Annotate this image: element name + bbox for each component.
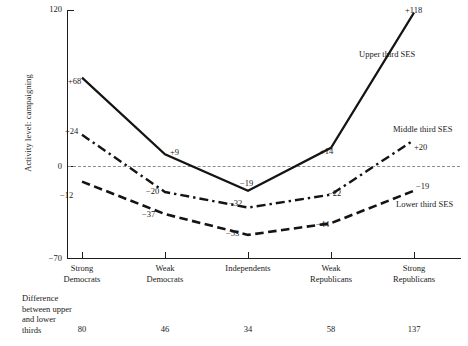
x-category-label-4-line2: Republicans bbox=[368, 274, 460, 285]
series-line-upper-third-ses bbox=[82, 13, 414, 191]
value-label-upper-4: +118 bbox=[405, 5, 422, 15]
value-label-lower-0: −12 bbox=[60, 190, 73, 200]
x-category-label-3: Weak Republicans bbox=[285, 263, 377, 284]
x-category-label-4: Strong Republicans bbox=[368, 263, 460, 284]
value-label-upper-1: +9 bbox=[170, 147, 179, 157]
value-label-lower-3: −44 bbox=[316, 219, 329, 229]
difference-label-line1: Difference bbox=[22, 293, 72, 304]
x-category-label-3-line2: Republicans bbox=[285, 274, 377, 285]
value-label-upper-3: +14 bbox=[320, 146, 333, 156]
x-category-label-0: Strong Democrats bbox=[36, 263, 128, 284]
value-label-middle-0: +24 bbox=[65, 126, 78, 136]
series-label-lower-third-ses: Lower third SES bbox=[396, 199, 453, 209]
value-label-middle-3: −22 bbox=[328, 188, 341, 198]
series-label-middle-third-ses: Middle third SES bbox=[393, 124, 453, 134]
x-category-label-2: Independents bbox=[202, 263, 294, 274]
x-category-label-1-line1: Weak bbox=[119, 263, 211, 274]
series-line-middle-third-ses bbox=[82, 135, 414, 208]
value-label-upper-0: +68 bbox=[68, 76, 81, 86]
difference-label-line2: between upper bbox=[22, 304, 72, 315]
value-label-middle-2: −32 bbox=[229, 198, 242, 208]
x-category-label-4-line1: Strong bbox=[368, 263, 460, 274]
x-category-label-0-line2: Democrats bbox=[36, 274, 128, 285]
series-label-upper-third-ses: Upper third SES bbox=[359, 49, 415, 59]
x-category-label-2-line1: Independents bbox=[202, 263, 294, 274]
difference-value-0: 80 bbox=[52, 324, 112, 334]
difference-label-line3: and lower bbox=[22, 314, 72, 325]
value-label-middle-1: −20 bbox=[146, 186, 159, 196]
chart-figure: Activity level: campaigning 120 0 −70 +6… bbox=[0, 0, 468, 346]
difference-value-1: 46 bbox=[135, 324, 195, 334]
difference-value-3: 58 bbox=[301, 324, 361, 334]
x-category-label-3-line1: Weak bbox=[285, 263, 377, 274]
difference-value-4: 137 bbox=[384, 324, 444, 334]
difference-value-2: 34 bbox=[218, 324, 278, 334]
x-category-label-1-line2: Democrats bbox=[119, 274, 211, 285]
value-label-lower-2: −53 bbox=[226, 228, 239, 238]
value-label-lower-4: −19 bbox=[416, 181, 429, 191]
x-category-label-0-line1: Strong bbox=[36, 263, 128, 274]
value-label-upper-2: −19 bbox=[240, 178, 253, 188]
value-label-middle-4: +20 bbox=[414, 142, 427, 152]
value-label-lower-1: −37 bbox=[142, 209, 155, 219]
x-category-label-1: Weak Democrats bbox=[119, 263, 211, 284]
